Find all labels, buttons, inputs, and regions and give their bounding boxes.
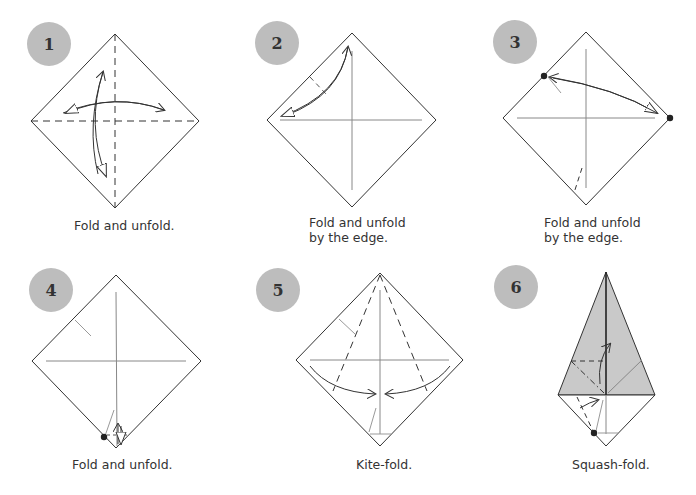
step-6: 6 [494,265,655,446]
step-number: 5 [272,281,283,300]
origami-diagram: 1 2 3 4 [0,0,696,495]
step-number: 2 [271,34,282,53]
step-number: 4 [45,281,56,300]
reference-point [591,430,597,436]
step-2-caption: Fold and unfold by the edge. [309,215,406,245]
step-3-caption: Fold and unfold by the edge. [544,215,641,245]
step-number: 3 [509,33,520,52]
step-2: 2 [255,21,436,207]
step-4: 4 [29,268,201,448]
step-3: 3 [493,20,673,205]
step-number: 1 [43,35,54,54]
step-5-caption: Kite-fold. [356,457,412,472]
reference-point [541,73,547,79]
step-number: 6 [510,278,521,297]
step-1: 1 [27,22,199,208]
step-4-caption: Fold and unfold. [72,457,173,472]
reference-point [101,434,107,440]
step-6-caption: Squash-fold. [572,457,650,472]
reference-point [667,115,673,121]
step-5: 5 [256,268,463,446]
step-1-caption: Fold and unfold. [74,218,175,233]
